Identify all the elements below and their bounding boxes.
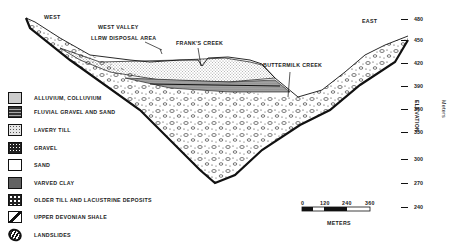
tick-mark xyxy=(401,19,408,20)
elevation-units: Meters xyxy=(441,100,447,118)
tick-mark xyxy=(401,159,408,160)
varved-clay-swatch xyxy=(8,177,22,189)
tick-label: 240 xyxy=(414,204,423,210)
landslide-icon xyxy=(6,226,24,243)
site-label-line2: LLRW DISPOSAL AREA xyxy=(91,35,156,41)
legend-item: FLUVIAL GRAVEL AND SAND xyxy=(8,105,115,119)
scale-tick-label: 120 xyxy=(320,200,330,206)
tick-label: 450 xyxy=(414,37,423,43)
shale-swatch xyxy=(8,211,22,223)
gravel-swatch xyxy=(8,142,22,154)
legend-item: UPPER DEVONIAN SHALE xyxy=(8,210,107,224)
legend-item: LANDSLIDES xyxy=(8,228,71,242)
elevation-title: ELEVATION xyxy=(414,100,420,132)
tick-mark xyxy=(401,132,408,133)
tick-mark xyxy=(401,183,408,184)
buttermilk-creek-label: BUTTERMILK CREEK xyxy=(263,62,322,68)
tick-mark xyxy=(401,63,408,64)
tick-label: 300 xyxy=(414,156,423,162)
site-label-line1: WEST VALLEY xyxy=(98,24,139,30)
tick-mark xyxy=(401,207,408,208)
scale-tick-label: 240 xyxy=(342,200,352,206)
alluvium-swatch xyxy=(8,92,22,104)
scale-tick-label: 0 xyxy=(301,200,304,206)
tick-mark xyxy=(401,40,408,41)
tick-label: 270 xyxy=(414,180,423,186)
legend-item: OLDER TILL AND LACUSTRINE DEPOSITS xyxy=(8,193,152,207)
franks-creek-label: FRANK'S CREEK xyxy=(176,40,223,46)
tick-label: 390 xyxy=(414,83,423,89)
east-label: EAST xyxy=(362,18,377,24)
tick-mark xyxy=(401,109,408,110)
tick-mark xyxy=(401,86,408,87)
tick-label: 480 xyxy=(414,16,423,22)
legend-item: SAND xyxy=(8,158,50,172)
tick-label: 420 xyxy=(414,60,423,66)
lavery-till-swatch xyxy=(8,124,22,136)
legend-item: LAVERY TILL xyxy=(8,123,71,137)
older-till-swatch xyxy=(8,194,22,206)
scale-tick-label: 360 xyxy=(365,200,375,206)
fluvial-swatch xyxy=(8,106,22,118)
sand-swatch xyxy=(8,159,22,171)
legend-item: GRAVEL xyxy=(8,141,57,155)
legend-item: VARVED CLAY xyxy=(8,176,74,190)
legend-item: ALLUVIUM, COLLUVIUM xyxy=(8,91,102,105)
west-label: WEST xyxy=(44,14,61,20)
scale-units-label: METERS xyxy=(327,220,351,226)
